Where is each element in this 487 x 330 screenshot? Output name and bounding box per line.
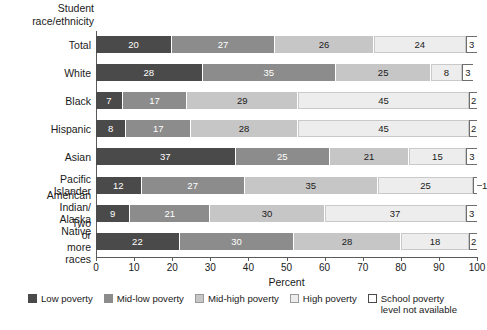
legend-item[interactable]: Low poverty bbox=[28, 293, 93, 304]
bar-segment[interactable]: 24 bbox=[374, 36, 465, 53]
bar-segment-value: 29 bbox=[237, 95, 248, 106]
legend-item[interactable]: Mid-high poverty bbox=[195, 293, 279, 304]
bar-segment[interactable]: 28 bbox=[294, 233, 401, 250]
bar-segment[interactable]: 2 bbox=[469, 92, 477, 109]
chart-legend: Low povertyMid-low povertyMid-high pover… bbox=[28, 293, 480, 315]
x-axis-tick bbox=[96, 257, 97, 261]
x-axis-tick bbox=[477, 257, 478, 261]
legend-item[interactable]: High poverty bbox=[290, 293, 357, 304]
legend-item[interactable]: School poverty level not available bbox=[368, 293, 457, 315]
legend-label: High poverty bbox=[303, 293, 357, 304]
stacked-bar: 92130373 bbox=[96, 205, 477, 222]
bar-segment[interactable]: 28 bbox=[96, 64, 203, 81]
bar-segment[interactable]: 30 bbox=[180, 233, 294, 250]
bar-segment[interactable]: 3 bbox=[466, 36, 477, 53]
bar-row-label: Asian bbox=[65, 151, 91, 163]
x-axis-tick-label: 60 bbox=[319, 262, 330, 273]
bar-segment[interactable]: 21 bbox=[130, 205, 210, 222]
bar-segment-value: 28 bbox=[239, 123, 250, 134]
bar-segment[interactable]: 7 bbox=[96, 92, 123, 109]
bar-segment[interactable]: 3 bbox=[466, 205, 477, 222]
bar-segment-value: 21 bbox=[164, 208, 175, 219]
bar-segment-value: 8 bbox=[444, 67, 449, 78]
bar-segment-value: 7 bbox=[106, 95, 111, 106]
bar-segment-value: 25 bbox=[277, 151, 288, 162]
stacked-bar: 223028182 bbox=[96, 233, 477, 250]
legend-label: Mid-high poverty bbox=[208, 293, 279, 304]
bar-segment[interactable]: 27 bbox=[172, 36, 275, 53]
legend-swatch bbox=[28, 294, 37, 303]
bar-segment[interactable]: 28 bbox=[191, 120, 298, 137]
x-axis-tick-label: 20 bbox=[167, 262, 178, 273]
bar-segment[interactable]: 2 bbox=[469, 233, 477, 250]
stacked-bar: 122735251 bbox=[96, 177, 477, 194]
bar-segment[interactable]: 25 bbox=[236, 148, 330, 165]
bar-segment[interactable]: 45 bbox=[298, 92, 469, 109]
bar-segment-value: 25 bbox=[378, 67, 389, 78]
bar-segment[interactable]: 37 bbox=[325, 205, 466, 222]
bar-segment[interactable]: 3 bbox=[462, 64, 473, 81]
bar-segment[interactable]: 26 bbox=[275, 36, 374, 53]
bar-segment-value: 30 bbox=[231, 236, 242, 247]
bar-row: Black71729452 bbox=[96, 92, 477, 109]
bar-segment[interactable]: 30 bbox=[210, 205, 324, 222]
bar-row: Asian372521153 bbox=[96, 148, 477, 165]
bar-segment-value: 20 bbox=[128, 39, 139, 50]
bar-segment-value: 9 bbox=[110, 208, 115, 219]
x-axis-tick-label: 80 bbox=[395, 262, 406, 273]
bar-segment[interactable]: 17 bbox=[123, 92, 188, 109]
x-axis-tick bbox=[172, 257, 173, 261]
bar-segment-value: 3 bbox=[465, 67, 470, 78]
bar-segment-value: 45 bbox=[378, 123, 389, 134]
bar-segment[interactable]: 37 bbox=[96, 148, 236, 165]
bar-segment[interactable]: 15 bbox=[409, 148, 466, 165]
bar-segment-value: 2 bbox=[471, 236, 476, 247]
bar-row: Hispanic81728452 bbox=[96, 120, 477, 137]
bar-segment[interactable]: 45 bbox=[298, 120, 469, 137]
legend-item[interactable]: Mid-low poverty bbox=[104, 293, 184, 304]
bar-segment-value: 15 bbox=[432, 151, 443, 162]
x-axis-tick bbox=[287, 257, 288, 261]
stacked-bar: 372521153 bbox=[96, 148, 477, 165]
bar-segment-value: 27 bbox=[187, 180, 198, 191]
bar-segment[interactable]: 35 bbox=[203, 64, 336, 81]
bar-row-label: Two or more races bbox=[65, 217, 91, 265]
legend-label: Mid-low poverty bbox=[117, 293, 184, 304]
bar-segment[interactable]: 2 bbox=[469, 120, 477, 137]
bar-segment[interactable]: 18 bbox=[401, 233, 470, 250]
bar-segment[interactable]: 8 bbox=[96, 120, 126, 137]
x-axis-tick-label: 50 bbox=[281, 262, 292, 273]
bar-segment[interactable]: 29 bbox=[187, 92, 297, 109]
bar-segment[interactable]: 17 bbox=[126, 120, 191, 137]
bar-segment-value: 2 bbox=[471, 123, 476, 134]
plot-area: Total202726243White28352583Black71729452… bbox=[96, 31, 477, 257]
bar-segment-value: 22 bbox=[132, 236, 143, 247]
bar-segment-value: 1 bbox=[482, 180, 487, 191]
bar-row: Pacific Islander122735251 bbox=[96, 177, 477, 194]
bar-segment[interactable]: 35 bbox=[245, 177, 378, 194]
stacked-bar: 202726243 bbox=[96, 36, 477, 53]
bar-segment[interactable]: 25 bbox=[378, 177, 473, 194]
legend-swatch bbox=[104, 294, 113, 303]
bar-segment[interactable]: 8 bbox=[431, 64, 461, 81]
bar-segment[interactable]: 3 bbox=[466, 148, 477, 165]
bar-segment[interactable]: 27 bbox=[142, 177, 245, 194]
x-axis-tick-label: 30 bbox=[205, 262, 216, 273]
bar-segment-value: 17 bbox=[153, 123, 164, 134]
x-axis-tick bbox=[325, 257, 326, 261]
bar-segment[interactable]: 22 bbox=[96, 233, 180, 250]
bar-segment-value: 45 bbox=[378, 95, 389, 106]
legend-swatch bbox=[368, 294, 377, 303]
bar-segment[interactable]: 25 bbox=[336, 64, 431, 81]
bar-segment[interactable]: 12 bbox=[96, 177, 142, 194]
x-axis-tick bbox=[439, 257, 440, 261]
bar-segment[interactable]: 1 bbox=[473, 177, 477, 194]
bar-segment-value: 27 bbox=[218, 39, 229, 50]
group-axis-title: Student race/ethnicity bbox=[0, 2, 94, 28]
bar-segment[interactable]: 9 bbox=[96, 205, 130, 222]
bar-segment[interactable]: 21 bbox=[330, 148, 409, 165]
bar-segment[interactable]: 20 bbox=[96, 36, 172, 53]
stacked-bar: 28352583 bbox=[96, 64, 477, 81]
x-axis-tick bbox=[401, 257, 402, 261]
x-axis-tick bbox=[363, 257, 364, 261]
